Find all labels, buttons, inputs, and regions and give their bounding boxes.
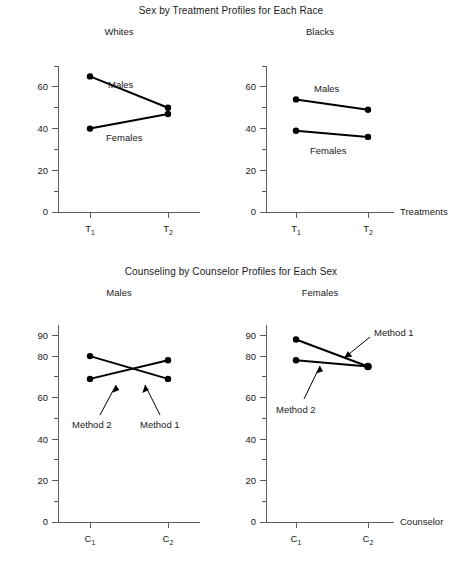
y-tick-label-60: 60: [245, 392, 256, 403]
y-tick-label-80: 80: [37, 351, 48, 362]
y-tick-label-40: 40: [245, 434, 256, 445]
annotation-arrowhead-method2: [316, 366, 323, 374]
y-tick-label-20: 20: [245, 475, 256, 486]
x-tick-label-t2: T2: [363, 223, 373, 236]
series-label-method2: Method 2: [72, 419, 112, 430]
section-title-top: Sex by Treatment Profiles for Each Race: [0, 5, 462, 16]
series-label-method1: Method 1: [140, 419, 180, 430]
y-tick-label-20: 20: [37, 165, 48, 176]
y-tick-label-20: 20: [37, 475, 48, 486]
chart-whites: 0 20 40 60 T1 T2 Males Females: [14, 42, 224, 237]
y-tick-label-80: 80: [245, 351, 256, 362]
figure-page: Sex by Treatment Profiles for Each Race …: [0, 0, 462, 567]
x-tick-label-c1: C1: [291, 533, 302, 546]
x-axis-label-counselor: Counselor: [400, 516, 443, 527]
y-tick-label-40: 40: [245, 123, 256, 134]
panel-title-females: Females: [222, 287, 418, 298]
data-point: [165, 357, 171, 363]
y-tick-label-60: 60: [37, 81, 48, 92]
y-tick-label-0: 0: [43, 516, 48, 527]
y-tick-label-40: 40: [37, 123, 48, 134]
y-tick-label-20: 20: [245, 165, 256, 176]
panel-blacks: Blacks 0 20 40 60 T1 T2 Treatments: [222, 26, 462, 226]
y-tick-label-0: 0: [43, 206, 48, 217]
data-point: [293, 128, 299, 134]
data-point: [87, 353, 93, 359]
chart-males: 0 20 40 60 80 90 C1 C2 Method 2: [14, 303, 224, 548]
x-tick-label-t1: T1: [291, 223, 301, 236]
panel-title-blacks: Blacks: [222, 26, 418, 37]
panel-title-males: Males: [14, 287, 224, 298]
y-tick-label-90: 90: [37, 330, 48, 341]
y-tick-label-90: 90: [245, 330, 256, 341]
y-tick-label-0: 0: [251, 516, 256, 527]
x-tick-label-t1: T1: [85, 223, 95, 236]
data-point: [365, 134, 371, 140]
series-label-females: Females: [310, 145, 347, 156]
series-line-males: [296, 99, 368, 109]
annotation-arrowhead-method1: [142, 385, 149, 393]
series-label-males: Males: [314, 83, 340, 94]
x-tick-label-t2: T2: [163, 223, 173, 236]
panel-males: Males 0 20 40 60 80 90 C1 C2: [14, 287, 224, 537]
data-point: [365, 107, 371, 113]
series-label-males: Males: [108, 79, 134, 90]
chart-blacks: 0 20 40 60 T1 T2 Treatments Males Female…: [222, 42, 462, 237]
y-tick-label-40: 40: [37, 434, 48, 445]
panel-title-whites: Whites: [14, 26, 224, 37]
panel-whites: Whites 0 20 40 60 T1 T2: [14, 26, 224, 226]
data-point: [87, 376, 93, 382]
section-title-bottom: Counseling by Counselor Profiles for Eac…: [0, 266, 462, 277]
x-tick-label-c2: C2: [363, 533, 374, 546]
panel-females: Females 0 20 40 60 80 90 C1 C2 Counsel: [222, 287, 462, 537]
series-label-method1: Method 1: [374, 327, 414, 338]
data-point: [293, 357, 299, 363]
series-label-females: Females: [106, 132, 143, 143]
y-tick-label-0: 0: [251, 206, 256, 217]
data-point: [87, 73, 93, 79]
x-axis-label-treatments: Treatments: [400, 206, 448, 217]
y-tick-label-60: 60: [245, 81, 256, 92]
data-point: [364, 363, 372, 371]
series-line-females: [296, 131, 368, 137]
data-point: [165, 376, 171, 382]
data-point: [293, 336, 299, 342]
data-point: [87, 125, 93, 131]
data-point: [165, 105, 171, 111]
annotation-leader-method2: [100, 385, 116, 415]
x-tick-label-c2: C2: [163, 533, 174, 546]
data-point: [293, 96, 299, 102]
y-tick-label-60: 60: [37, 392, 48, 403]
x-tick-label-c1: C1: [85, 533, 96, 546]
chart-females: 0 20 40 60 80 90 C1 C2 Counselor Method …: [222, 303, 462, 548]
series-line-females: [90, 114, 168, 129]
data-point: [165, 111, 171, 117]
series-label-method2: Method 2: [276, 404, 316, 415]
